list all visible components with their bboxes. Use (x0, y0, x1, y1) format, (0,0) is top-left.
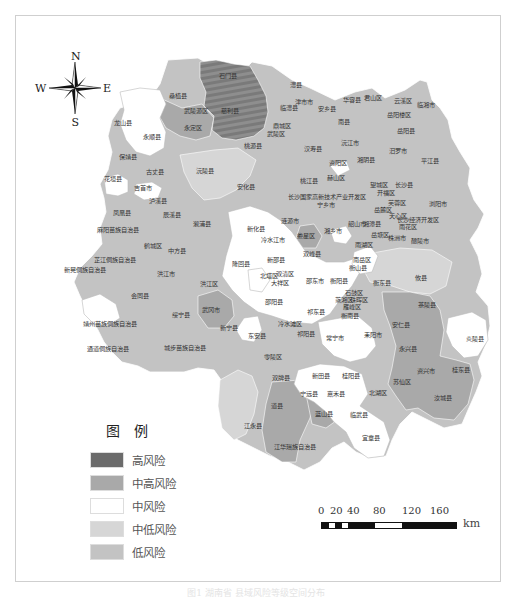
county-label: 岳塘区 (371, 231, 389, 239)
county-label: 雨湖区 (355, 241, 373, 249)
county-label: 会同县 (131, 292, 149, 300)
county-label: 东安县 (248, 332, 266, 340)
county-label: 云溪区 (394, 97, 412, 105)
county-label: 宁远县 (300, 390, 318, 398)
county-label: 湘阴县 (357, 156, 375, 164)
compass-e-label: E (103, 82, 111, 95)
legend-swatch-low (90, 544, 124, 560)
county-label: 新宁县 (220, 324, 238, 332)
county-label: 资阳区 (329, 159, 347, 167)
county-label: 洪江区 (200, 280, 218, 288)
county-label: 桑植县 (169, 92, 187, 100)
county-label: 澧县 (290, 81, 302, 89)
county-label: 嘉禾县 (327, 390, 345, 398)
county-label: 桃源县 (244, 142, 262, 150)
county-label: 资兴市 (417, 367, 435, 375)
county-label: 鼎城区 (273, 122, 291, 130)
county-label: 安化县 (237, 183, 255, 191)
county-label: 蓝山县 (315, 410, 333, 418)
county-label: 炎陵县 (466, 335, 484, 343)
county-label: 隆回县 (232, 260, 250, 268)
legend-swatch-mid-high (90, 475, 124, 491)
county-label: 湘乡市 (324, 227, 342, 235)
county-label: 泸溪县 (149, 197, 167, 205)
county-label: 湘潭县 (363, 220, 381, 228)
county-label: 双牌县 (272, 374, 290, 382)
legend-swatch-mid-low (90, 521, 124, 537)
legend-label: 中低风险 (132, 521, 176, 537)
county-label: 武陵源区 (184, 107, 208, 115)
county-label: 苏仙区 (393, 378, 411, 386)
county-label: 常宁市 (326, 334, 344, 342)
legend-item-mid-high: 中高风险 (90, 471, 176, 494)
county-label: 武冈市 (202, 306, 220, 314)
scale-tick: 40 (347, 505, 360, 516)
county-label: 吉首市 (134, 184, 152, 192)
county-label: 衡南县 (341, 312, 359, 320)
county-label: 邵东市 (306, 277, 324, 285)
county-label: 江永县 (244, 422, 262, 430)
county-label: 沅陵县 (196, 167, 214, 175)
county-label: 望城区 (370, 181, 388, 189)
county-label: 赫山区 (327, 174, 345, 182)
county-label: 桃江县 (300, 177, 318, 185)
county-label: 永定区 (184, 124, 202, 132)
county-label: 雁峰区 (343, 303, 361, 311)
county-label: 长沙国家高新技术产业开发区 (288, 193, 366, 201)
county-label: 新邵县 (267, 256, 285, 264)
county-label: 城步苗族自治县 (164, 344, 206, 352)
county-label: 南岳区 (353, 256, 371, 264)
legend-label: 高风险 (132, 452, 165, 468)
county-label: 平江县 (421, 157, 439, 165)
scale-tick: 20 (330, 505, 343, 516)
county-label: 零陵区 (264, 353, 282, 361)
county-label: 安仁县 (392, 321, 410, 329)
legend-swatch-high (90, 452, 124, 468)
county-label: 茶陵县 (418, 301, 436, 309)
legend-title: 图例 (106, 420, 176, 440)
county-label: 凤凰县 (113, 209, 131, 217)
county-label: 冷水江市 (261, 236, 285, 244)
county-label: 武陵区 (267, 130, 285, 138)
county-label: 娄星区 (297, 232, 315, 239)
county-label: 安乡县 (318, 105, 336, 113)
figure-caption: 图1 湖南省 县域风险等级空间分布 (0, 586, 512, 599)
legend-swatch-mid (90, 498, 124, 514)
county-label: 慈利县 (221, 107, 239, 115)
county-label: 保靖县 (119, 153, 137, 161)
scale-tick: 120 (402, 505, 421, 516)
compass-s-label: S (72, 116, 80, 129)
county-label: 祁东县 (307, 308, 325, 316)
county-label: 临武县 (350, 411, 368, 419)
county-label: 临湘市 (417, 101, 435, 109)
county-label: 永兴县 (399, 345, 417, 353)
county-label: 芷江侗族自治县 (94, 256, 136, 264)
county-label: 中方县 (168, 247, 186, 255)
legend: 图例 高风险 中高风险 中风险 中低风险 低风险 (90, 420, 176, 563)
county-label: 北湖区 (369, 389, 387, 397)
county-label: 桂阳县 (342, 372, 360, 380)
county-label: 岳阳县 (397, 127, 415, 135)
county-label: 耒阳市 (364, 331, 382, 339)
compass-n-label: N (71, 50, 81, 63)
county-label: 岳阳楼区 (387, 111, 411, 119)
county-label: 双清区 (276, 270, 294, 278)
county-label: 衡阳县 (330, 277, 348, 285)
legend-item-mid-low: 中低风险 (90, 517, 176, 540)
county-label: 麻阳苗族自治县 (97, 226, 139, 234)
county-label: 宁乡市 (317, 201, 335, 209)
county-label: 古丈县 (146, 168, 164, 176)
county-label: 南县 (338, 118, 350, 126)
county-label: 汝城县 (434, 394, 452, 402)
county-label: 醴陵市 (411, 237, 429, 245)
scale-tick: 0 (318, 505, 324, 516)
county-label: 雨花区 (399, 223, 417, 231)
legend-item-high: 高风险 (90, 448, 176, 471)
county-label: 龙山县 (114, 119, 132, 127)
county-label: 攸县 (415, 274, 427, 282)
county-label: 大祥区 (271, 279, 289, 287)
legend-label: 中风险 (132, 498, 165, 514)
county-label: 双峰县 (303, 250, 321, 258)
county-label: 汨罗市 (389, 147, 407, 155)
scale-unit: km (463, 517, 480, 530)
